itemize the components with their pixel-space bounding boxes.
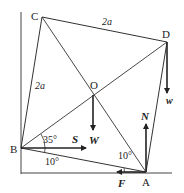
label-D: D (162, 28, 170, 40)
statics-diagram: C D O B A 2a 2a 35° 10° 10° S W w N F (0, 0, 184, 193)
label-C: C (31, 10, 38, 22)
side-DA (146, 42, 167, 172)
label-force-W: W (89, 134, 100, 146)
label-side-BC: 2a (35, 80, 45, 91)
label-force-S: S (72, 133, 78, 145)
diagram-svg: C D O B A 2a 2a 35° 10° 10° S W w N F (0, 0, 184, 193)
label-angle-35: 35° (43, 134, 57, 145)
label-force-F: F (117, 177, 126, 189)
label-force-N: N (140, 110, 150, 122)
label-O: O (90, 79, 98, 91)
label-force-w: w (166, 95, 173, 106)
label-angle-10-B: 10° (45, 156, 59, 167)
label-B: B (10, 143, 17, 155)
label-angle-10-A: 10° (118, 150, 132, 161)
label-side-CD: 2a (102, 16, 112, 27)
diagonal-BD (21, 42, 167, 148)
label-A: A (142, 176, 150, 188)
